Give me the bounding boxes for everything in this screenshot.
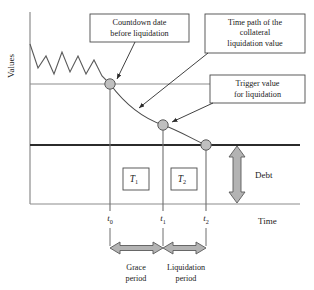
grace-period-label-line-1: Grace: [126, 263, 146, 272]
callout-trigger-line-1: Trigger value: [235, 79, 279, 88]
trigger-mid-marker: [158, 120, 168, 130]
callout-countdown: Countdown date before liquidation: [90, 14, 189, 79]
liquidation-period-label-line-1: Liquidation: [167, 263, 205, 272]
x-tick-labels-group: t0 t1 t2: [107, 213, 209, 225]
time-gridlines-group: [110, 84, 206, 211]
interval-box-t2-sub: 2: [183, 178, 186, 185]
liquidation-period-label-line-2: period: [176, 274, 197, 283]
callout-countdown-line-1: Countdown date: [113, 18, 167, 27]
callout-countdown-leader: [117, 42, 135, 79]
diagram-figure: Values Time Countdown date: [0, 0, 314, 290]
callout-time-path-leader: [139, 53, 208, 108]
interval-box-t2: T2: [171, 168, 197, 190]
callout-time-path-line-3: liquidation value: [227, 39, 283, 48]
x-tick-t2: t2: [203, 213, 209, 225]
zigzag-collateral-path: [30, 44, 110, 84]
callout-time-path-line-2: collateral: [240, 28, 271, 37]
countdown-marker: [105, 79, 115, 89]
x-axis-label: Time: [258, 216, 277, 226]
x-tick-t1-sub: 1: [163, 218, 166, 225]
series-group: [30, 44, 206, 145]
x-tick-t1: t1: [160, 213, 166, 225]
x-tick-t2-sub: 2: [206, 218, 209, 225]
liquidation-period-double-arrow: [163, 242, 206, 254]
callout-time-path-line-1: Time path of the: [228, 18, 282, 27]
liquidation-period-arrow-group: Liquidation period: [163, 242, 206, 283]
interval-box-t1-sub: 1: [135, 178, 138, 185]
period-droplines-group: [110, 228, 206, 246]
diagram-canvas: Values Time Countdown date: [0, 0, 314, 290]
debt-double-arrow: [229, 146, 245, 203]
grace-period-arrow-group: Grace period: [110, 242, 163, 283]
x-tick-t0-sub: 0: [110, 218, 113, 225]
callout-trigger: Trigger value for liquidation: [172, 75, 305, 122]
callout-countdown-line-2: before liquidation: [110, 29, 168, 38]
grace-period-double-arrow: [110, 242, 163, 254]
liquidation-marker: [201, 140, 211, 150]
callout-trigger-leader: [172, 103, 213, 122]
callout-trigger-line-2: for liquidation: [234, 90, 281, 99]
interval-box-t1: T1: [123, 168, 149, 190]
x-tick-t0: t0: [107, 213, 113, 225]
debt-arrow-group: Debt: [229, 146, 273, 203]
grace-period-label-line-2: period: [126, 274, 147, 283]
y-axis-label: Values: [6, 54, 16, 78]
debt-label: Debt: [255, 170, 273, 180]
